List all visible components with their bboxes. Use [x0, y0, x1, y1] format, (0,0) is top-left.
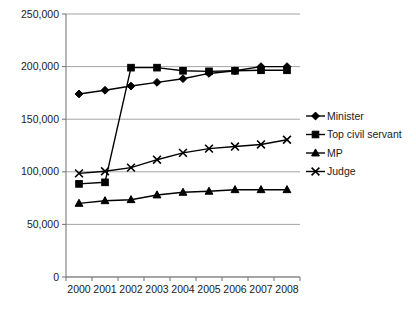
x-tick-labels: 200020012002200320042005200620072008 — [67, 283, 299, 295]
data-point-square-marker — [206, 68, 213, 75]
y-tick-labels: 050,000100,000150,000200,000250,000 — [21, 8, 59, 283]
data-point-square-marker — [128, 64, 135, 71]
x-tick-label: 2004 — [171, 283, 195, 295]
line-chart: 050,000100,000150,000200,000250,000 2000… — [0, 0, 416, 309]
legend-item-top-civil-servant[interactable]: Top civil servant — [306, 128, 402, 140]
data-point-diamond-marker — [101, 86, 109, 94]
x-tick-label: 2001 — [93, 283, 117, 295]
data-point-diamond-marker — [127, 82, 135, 90]
legend-label: Minister — [327, 110, 364, 122]
data-point-square-marker — [258, 67, 265, 74]
data-point-square-marker — [154, 64, 161, 71]
legend-label: MP — [327, 147, 343, 159]
y-tick-marks — [62, 14, 66, 277]
y-tick-label: 200,000 — [21, 60, 59, 72]
x-tick-label: 2008 — [275, 283, 299, 295]
data-point-diamond-marker — [179, 75, 187, 83]
y-tick-label: 50,000 — [27, 218, 59, 230]
legend-item-mp[interactable]: MP — [306, 147, 343, 159]
x-tick-label: 2006 — [223, 283, 247, 295]
x-tick-label: 2007 — [249, 283, 273, 295]
legend-item-judge[interactable]: Judge — [306, 165, 356, 177]
data-point-square-marker — [102, 179, 109, 186]
y-tick-label: 250,000 — [21, 8, 59, 20]
x-tick-marks — [66, 277, 300, 281]
data-point-square-marker — [180, 68, 187, 75]
x-tick-label: 2005 — [197, 283, 221, 295]
data-point-diamond-marker — [153, 78, 161, 86]
legend-label: Judge — [327, 165, 356, 177]
data-point-diamond-marker — [312, 112, 320, 120]
series-mp — [75, 186, 291, 207]
y-tick-label: 150,000 — [21, 113, 59, 125]
data-point-square-marker — [76, 181, 83, 188]
chart-container: ——— 050,000100,000150,000200,000250,000 … — [0, 0, 416, 309]
series-line — [79, 68, 287, 184]
chart-legend: MinisterTop civil servantMPJudge — [306, 110, 402, 178]
x-tick-label: 2000 — [67, 283, 91, 295]
data-point-square-marker — [232, 68, 239, 75]
x-tick-label: 2003 — [145, 283, 169, 295]
legend-label: Top civil servant — [327, 128, 402, 140]
series-judge — [75, 136, 291, 177]
data-point-diamond-marker — [75, 90, 83, 98]
x-tick-label: 2002 — [119, 283, 143, 295]
legend-item-minister[interactable]: Minister — [306, 110, 364, 122]
data-series-group — [75, 63, 291, 207]
data-point-square-marker — [312, 131, 319, 138]
data-point-square-marker — [284, 67, 291, 74]
y-tick-label: 0 — [53, 271, 59, 283]
gridlines-group — [66, 14, 300, 277]
y-tick-label: 100,000 — [21, 165, 59, 177]
